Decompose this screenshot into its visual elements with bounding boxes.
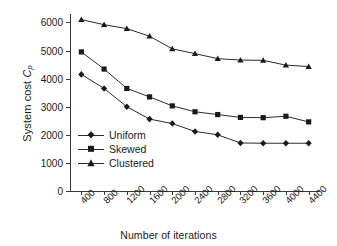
y-tick-label: 3000 (41, 101, 63, 112)
chart-figure: System cost Cp 0100020003000400050006000… (0, 0, 337, 246)
data-point (169, 120, 175, 127)
data-point (238, 115, 243, 120)
legend-label: Clustered (109, 157, 154, 169)
legend-item-clustered: Clustered (78, 156, 154, 170)
y-tick (66, 191, 70, 192)
data-point (169, 46, 175, 52)
data-point (306, 140, 312, 147)
chart-legend: Uniform Skewed Clustered (78, 128, 154, 170)
y-tick-label: 1000 (41, 157, 63, 168)
data-point (283, 114, 288, 119)
y-axis-subscript: p (25, 65, 34, 69)
x-axis-title: Number of iterations (0, 229, 337, 241)
legend-item-uniform: Uniform (78, 128, 154, 142)
diamond-marker-icon (78, 129, 104, 141)
data-point (237, 140, 243, 147)
y-axis-title-text: System cost (21, 78, 33, 142)
y-tick-label: 2000 (41, 129, 63, 140)
data-point (283, 140, 289, 147)
y-tick-label: 5000 (41, 45, 63, 56)
data-point (78, 71, 84, 78)
data-point (260, 140, 266, 147)
data-point (261, 115, 266, 120)
y-tick-label: 6000 (41, 17, 63, 28)
triangle-marker-icon (78, 157, 104, 169)
data-point (215, 132, 221, 139)
data-point (170, 103, 175, 108)
data-point (101, 66, 106, 71)
data-point (146, 116, 152, 123)
series-skewed (79, 49, 311, 124)
data-point (78, 17, 84, 23)
data-point (192, 109, 197, 114)
square-marker-icon (78, 143, 104, 155)
data-point (215, 112, 220, 117)
legend-item-skewed: Skewed (78, 142, 154, 156)
y-tick-label: 4000 (41, 73, 63, 84)
y-axis-title: System cost Cp (21, 29, 34, 179)
data-point (79, 49, 84, 54)
legend-label: Skewed (109, 143, 146, 155)
data-point (124, 86, 129, 91)
series-line (81, 20, 308, 67)
y-tick-label: 0 (57, 186, 63, 197)
data-point (147, 94, 152, 99)
series-clustered (78, 17, 311, 69)
y-axis-symbol: C (21, 70, 33, 78)
legend-label: Uniform (109, 129, 146, 141)
data-point (306, 119, 311, 124)
data-point (192, 128, 198, 135)
